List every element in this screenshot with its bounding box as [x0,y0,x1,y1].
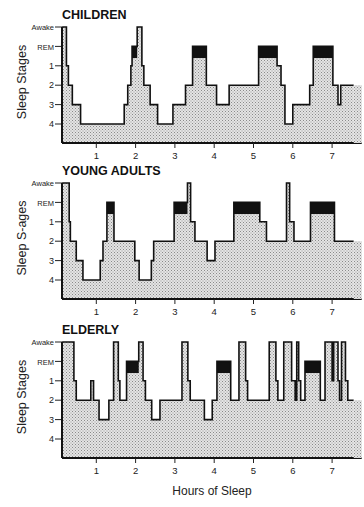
hour-tick-label: 2 [133,150,138,161]
stage-tick-label: Awake [32,179,54,188]
hour-tick-label: 4 [212,465,217,476]
stage-tick-label: Awake [32,338,54,347]
hour-tick-label: 1 [94,150,99,161]
hour-tick-label: 3 [172,465,177,476]
hour-tick-label: 2 [133,465,138,476]
y-axis-label: Sleep S-ages [15,200,29,275]
panel-young-adults: YOUNG ADULTSSleep S-agesAwakeREM12341234… [15,164,362,317]
stage-tick-label: 1 [49,61,54,71]
stage-tick-label: 2 [49,236,54,246]
rem-period [174,202,187,214]
sleep-stages-chart: CHILDRENSleep StagesAwakeREM12341234567Y… [0,0,364,507]
hour-tick-label: 1 [94,306,99,317]
stage-tick-label: REM [37,43,54,52]
hypnogram-area [62,342,354,458]
stage-tick-label: 1 [49,376,54,386]
hour-tick-label: 6 [290,465,295,476]
stage-tick-label: 4 [49,119,54,129]
x-axis-label: Hours of Sleep [172,484,252,498]
hour-tick-label: 1 [94,465,99,476]
stage-tick-label: 4 [49,275,54,285]
hour-tick-label: 4 [212,306,217,317]
hour-tick-label: 5 [251,150,256,161]
stage-tick-label: 1 [49,217,54,227]
y-axis-label: Sleep Stages [15,360,29,434]
hour-tick-label: 7 [329,465,334,476]
rem-period [305,361,320,373]
panel-title: ELDERLY [62,323,120,337]
rem-period [234,202,260,214]
stage-tick-label: 3 [49,256,54,266]
stage-tick-label: REM [37,358,54,367]
stage-tick-label: Awake [32,23,54,32]
hour-tick-label: 6 [290,306,295,317]
rem-period [310,202,334,214]
hour-tick-label: 7 [329,306,334,317]
panel-children: CHILDRENSleep StagesAwakeREM12341234567 [15,8,362,161]
stage-tick-label: 2 [49,80,54,90]
rem-period [193,46,207,58]
hour-tick-label: 3 [172,150,177,161]
stage-tick-label: 3 [49,100,54,110]
rem-period [217,361,231,373]
rem-period [259,46,277,58]
rem-period [313,46,333,58]
rem-period [127,361,139,373]
stage-tick-label: 3 [49,415,54,425]
hour-tick-label: 5 [251,306,256,317]
panel-elderly: ELDERLYSleep StagesAwakeREM12341234567 [15,323,362,476]
hour-tick-label: 4 [212,150,217,161]
panel-title: YOUNG ADULTS [62,164,161,178]
hour-tick-label: 5 [251,465,256,476]
y-axis-label: Sleep Stages [15,45,29,119]
stage-tick-label: 4 [49,434,54,444]
panel-title: CHILDREN [62,8,127,22]
stage-tick-label: 2 [49,395,54,405]
stage-tick-label: REM [37,199,54,208]
hour-tick-label: 7 [329,150,334,161]
rem-period [107,202,114,214]
hour-tick-label: 3 [172,306,177,317]
hour-tick-label: 2 [133,306,138,317]
hour-tick-label: 6 [290,150,295,161]
